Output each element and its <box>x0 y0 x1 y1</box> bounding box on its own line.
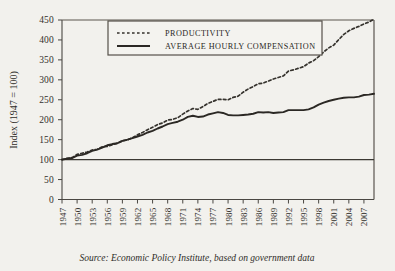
x-tick-label: 1977 <box>208 207 218 226</box>
chart-canvas: 050100150200250300350400450 194719501953… <box>0 0 395 271</box>
y-tick-label: 350 <box>39 55 54 65</box>
x-tick-label: 1956 <box>103 207 113 226</box>
y-tick-label: 200 <box>39 115 54 125</box>
y-tick-label: 400 <box>39 35 54 45</box>
x-tick-label: 1998 <box>314 207 324 226</box>
y-tick-label: 300 <box>39 75 54 85</box>
source-caption: Source: Economic Policy Institute, based… <box>80 253 315 263</box>
x-tick-label: 1983 <box>239 207 249 226</box>
legend-label-compensation: AVERAGE HOURLY COMPENSATION <box>165 42 316 51</box>
x-tick-label: 1974 <box>193 207 203 226</box>
productivity-compensation-figure: 050100150200250300350400450 194719501953… <box>0 0 395 271</box>
y-axis-title: Index (1947 = 100) <box>8 71 20 149</box>
x-tick-label: 1995 <box>299 207 309 226</box>
x-tick-label: 1965 <box>148 207 158 226</box>
legend-label-productivity: PRODUCTIVITY <box>165 29 231 38</box>
x-tick-label: 1968 <box>163 207 173 226</box>
y-axis-tick-group: 050100150200250300350400450 <box>39 15 62 205</box>
x-tick-label: 2007 <box>359 207 369 226</box>
x-tick-label: 1971 <box>178 208 188 227</box>
x-tick-label: 1962 <box>133 208 143 227</box>
x-axis-tick-group: 1947195019531956195919621965196819711974… <box>58 200 370 227</box>
y-tick-label: 0 <box>49 195 54 205</box>
y-tick-label: 450 <box>39 15 54 25</box>
y-tick-label: 150 <box>39 135 54 145</box>
x-tick-label: 1980 <box>224 207 234 226</box>
x-tick-label: 1989 <box>269 207 279 226</box>
x-tick-label: 1953 <box>88 207 98 226</box>
x-tick-label: 2004 <box>344 207 354 226</box>
x-tick-label: 2001 <box>329 208 339 227</box>
y-tick-label: 50 <box>44 175 54 185</box>
x-tick-label: 1947 <box>58 207 68 226</box>
y-tick-label: 100 <box>39 155 54 165</box>
x-tick-label: 1986 <box>254 207 264 226</box>
y-tick-label: 250 <box>39 95 54 105</box>
x-tick-label: 1959 <box>118 207 128 226</box>
x-tick-label: 1950 <box>73 207 83 226</box>
series-line-compensation <box>62 94 374 160</box>
x-tick-label: 1992 <box>284 208 294 227</box>
